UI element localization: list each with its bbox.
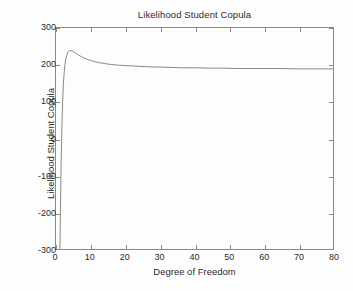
y-tick-label: -100 [38, 171, 56, 181]
x-axis-label: Degree of Freedom [55, 266, 334, 277]
y-tick-mark [56, 28, 60, 29]
y-tick-mark [56, 65, 60, 66]
chart-title: Likelihood Student Copula [55, 9, 334, 20]
x-tick-mark [265, 28, 266, 32]
x-tick-mark [230, 245, 231, 249]
figure-canvas: Likelihood Student Copula Degree of Free… [0, 0, 353, 291]
y-tick-mark [329, 28, 333, 29]
x-tick-mark [265, 245, 266, 249]
x-tick-mark [196, 245, 197, 249]
plot-area [55, 27, 334, 250]
x-tick-mark [300, 28, 301, 32]
y-tick-mark [329, 102, 333, 103]
x-tick-label: 60 [259, 252, 269, 262]
x-tick-mark [161, 28, 162, 32]
y-tick-label: 0 [51, 134, 56, 144]
y-tick-mark [329, 214, 333, 215]
x-tick-label: 10 [85, 252, 95, 262]
x-tick-label: 20 [120, 252, 130, 262]
x-tick-mark [56, 245, 57, 249]
y-tick-label: -300 [38, 245, 56, 255]
x-tick-label: 50 [224, 252, 234, 262]
x-tick-label: 30 [155, 252, 165, 262]
y-tick-mark [56, 214, 60, 215]
x-tick-mark [91, 28, 92, 32]
y-tick-mark [56, 177, 60, 178]
x-tick-mark [230, 28, 231, 32]
y-tick-mark [329, 65, 333, 66]
x-tick-label: 80 [329, 252, 339, 262]
x-tick-mark [91, 245, 92, 249]
x-tick-mark [300, 245, 301, 249]
x-tick-mark [196, 28, 197, 32]
x-tick-label: 40 [189, 252, 199, 262]
y-tick-label: 100 [41, 96, 56, 106]
y-tick-mark [329, 177, 333, 178]
y-tick-mark [56, 102, 60, 103]
y-tick-label: 200 [41, 59, 56, 69]
likelihood-curve [56, 28, 333, 249]
curve-polyline [59, 50, 333, 249]
y-tick-label: 300 [41, 22, 56, 32]
y-tick-mark [329, 140, 333, 141]
x-tick-mark [126, 245, 127, 249]
x-tick-mark [161, 245, 162, 249]
y-tick-label: -200 [38, 208, 56, 218]
x-tick-mark [126, 28, 127, 32]
y-tick-mark [56, 140, 60, 141]
x-tick-label: 70 [294, 252, 304, 262]
